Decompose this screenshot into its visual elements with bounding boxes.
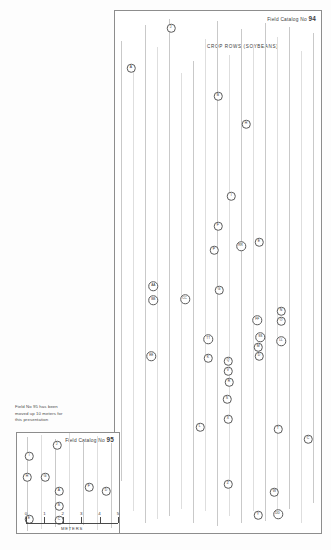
crop-row-line (253, 45, 254, 511)
crop-row-line (277, 37, 278, 517)
find-marker: S (223, 395, 232, 404)
scale-tick (63, 517, 64, 523)
find-marker: LL (276, 336, 286, 346)
find-marker: N (277, 307, 286, 316)
find-marker-label: S (226, 397, 228, 400)
find-marker-label: O (280, 319, 283, 322)
scale-bar: 012345 METERS (26, 514, 118, 536)
find-marker: R (225, 378, 234, 387)
find-marker-label: W (272, 490, 275, 493)
find-marker: C (304, 435, 313, 444)
find-marker: A (127, 64, 136, 73)
find-marker-label: D (258, 354, 260, 357)
crop-row-line (229, 55, 230, 516)
scale-bar-axis (26, 523, 118, 524)
scale-tick (118, 517, 119, 523)
find-marker: E (255, 238, 264, 247)
crop-row-line (181, 73, 182, 509)
scale-tick-label: 2 (62, 511, 64, 516)
find-marker-label: F (217, 224, 219, 227)
find-marker-label: X (227, 417, 229, 420)
find-marker: M (254, 343, 263, 352)
find-marker-label: R (228, 380, 230, 383)
find-marker: F (85, 483, 94, 492)
crop-row-line (169, 19, 170, 516)
scale-tick-label: 0 (25, 511, 27, 516)
find-marker-label: CC (183, 297, 187, 300)
inset-catalog-number: 95 (106, 436, 114, 443)
find-marker: D (102, 487, 111, 496)
find-marker: L (196, 423, 205, 432)
find-marker: TT (203, 334, 213, 344)
main-catalog-prefix: Field Catalog No (267, 17, 307, 22)
find-marker-label: N (280, 309, 282, 312)
find-marker-label: G (44, 475, 47, 478)
find-marker: EE (146, 351, 156, 361)
find-marker: P (210, 246, 219, 255)
crop-row-line (121, 41, 122, 481)
find-marker: Z (224, 480, 233, 489)
crop-row-line (193, 61, 194, 523)
crop-row-line (83, 441, 84, 525)
crop-row-line (289, 27, 290, 509)
find-marker: RR (236, 241, 246, 251)
find-marker-label: BB (151, 298, 155, 301)
find-marker: K (204, 354, 213, 363)
find-marker-label: P (213, 248, 215, 251)
crop-row-line (205, 39, 206, 511)
find-marker-label: M (257, 345, 260, 348)
main-field-map-panel: Field Catalog No 94 CROP ROWS (SOYBEANS)… (114, 10, 322, 534)
find-marker: CC (180, 294, 190, 304)
find-marker: Q (224, 357, 233, 366)
find-marker-label: Y (257, 513, 259, 516)
find-marker: T (274, 425, 283, 434)
find-marker-label: A (58, 489, 60, 492)
find-marker-label: J (56, 443, 58, 446)
scale-bar-caption: METERS (61, 526, 83, 531)
find-marker-label: DD (276, 512, 280, 515)
find-marker: B (214, 92, 223, 101)
scale-tick (44, 517, 45, 523)
find-marker: B (55, 502, 64, 511)
find-marker-label: G (218, 288, 221, 291)
crop-row-line (145, 25, 146, 523)
find-marker: FF (252, 315, 262, 325)
find-marker-label: C (307, 437, 309, 440)
find-marker-label: FF (255, 318, 259, 321)
find-marker: O (277, 317, 286, 326)
find-marker: V (224, 367, 233, 376)
find-marker: H (23, 473, 32, 482)
find-marker-label: Z (227, 482, 229, 485)
find-marker: D (255, 352, 264, 361)
find-marker-label: B (58, 504, 60, 507)
crop-row-line (313, 33, 314, 503)
find-marker: J (167, 24, 176, 33)
find-marker: I (227, 192, 236, 201)
find-marker: I (25, 452, 34, 461)
find-marker-label: T (277, 427, 279, 430)
find-marker-label: SS (258, 335, 262, 338)
find-marker: DD (273, 509, 283, 519)
find-marker-label: Q (227, 359, 230, 362)
find-marker-label: E (258, 240, 260, 243)
main-catalog-label: Field Catalog No 94 (267, 15, 316, 22)
find-marker-label: K (207, 356, 209, 359)
find-marker-label: B (217, 94, 219, 97)
scale-tick (81, 517, 82, 523)
find-marker: J (53, 441, 62, 450)
find-marker-label: H (26, 475, 28, 478)
find-marker-label: I (29, 454, 30, 457)
find-marker-label: J (170, 26, 172, 29)
inset-relocation-note: Field No 95 has been moved up 10 meters … (15, 404, 110, 424)
find-marker-label: D (105, 489, 107, 492)
find-marker-label: F (88, 485, 90, 488)
scale-tick-label: 3 (80, 511, 82, 516)
scale-tick (26, 517, 27, 523)
find-marker: F (214, 222, 223, 231)
find-marker-label: V (227, 369, 229, 372)
inset-catalog-label: Field Catalog No 95 (65, 436, 114, 443)
find-marker: AA (148, 281, 158, 291)
find-marker: H (242, 120, 251, 129)
find-marker-label: I (231, 194, 232, 197)
find-marker: Y (254, 511, 263, 520)
